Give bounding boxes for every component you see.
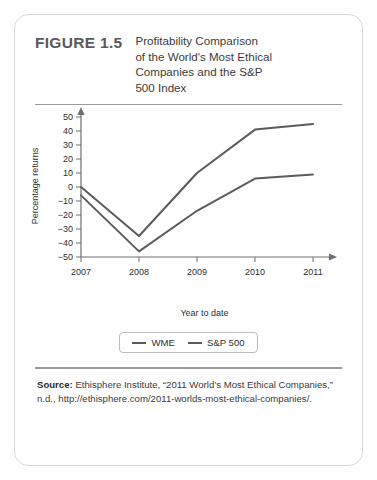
header-divider xyxy=(35,104,342,105)
x-axis-title: Year to date xyxy=(15,308,362,318)
y-axis-title: Percentage returns xyxy=(30,136,40,236)
y-tick-label: 10 xyxy=(63,168,73,178)
legend-item-sp500: S&P 500 xyxy=(188,337,245,348)
y-tick-label: 50 xyxy=(63,112,73,122)
figure-header: FIGURE 1.5 Profitability Comparison of t… xyxy=(15,15,362,95)
figure-card: FIGURE 1.5 Profitability Comparison of t… xyxy=(14,14,363,466)
series-line-wme xyxy=(81,124,313,236)
x-tick-label: 2011 xyxy=(303,267,322,277)
y-tick-label: 30 xyxy=(63,140,73,150)
y-tick-label: 20 xyxy=(63,154,73,164)
y-tick-label: 40 xyxy=(63,126,73,136)
figure-title-line: of the World's Most Ethical xyxy=(135,49,272,65)
x-axis-arrow-icon xyxy=(329,254,337,261)
source-text: Ethisphere Institute, “2011 World’s Most… xyxy=(37,379,333,404)
source-divider xyxy=(35,367,342,368)
y-tick-label: −30 xyxy=(58,224,73,234)
x-tick-label: 2009 xyxy=(187,267,207,277)
legend-box: WME S&P 500 xyxy=(119,332,257,353)
figure-title: Profitability Comparison of the World's … xyxy=(135,33,272,95)
y-tick-label: −40 xyxy=(58,238,73,248)
figure-title-line: 500 Index xyxy=(135,80,272,96)
y-tick-label: −50 xyxy=(58,252,73,262)
x-tick-label: 2007 xyxy=(71,267,91,277)
line-chart: 50 40 30 20 10 0 −10 −20 −30 −40 −50 xyxy=(15,107,361,307)
x-axis-ticks xyxy=(81,257,313,262)
y-tick-label: −20 xyxy=(58,210,73,220)
figure-title-line: Profitability Comparison xyxy=(135,33,272,49)
x-tick-label: 2010 xyxy=(245,267,265,277)
source-note: Source: Ethisphere Institute, “2011 Worl… xyxy=(37,378,340,406)
source-label: Source: xyxy=(37,379,73,390)
y-tick-label: 0 xyxy=(68,182,73,192)
figure-number: FIGURE 1.5 xyxy=(35,33,122,52)
figure-title-line: Companies and the S&P xyxy=(135,64,272,80)
chart-area: Percentage returns 50 40 30 20 10 0 −10 … xyxy=(15,107,362,322)
y-axis-tick-labels: 50 40 30 20 10 0 −10 −20 −30 −40 −50 xyxy=(58,112,73,262)
y-axis-arrow-icon xyxy=(77,107,84,115)
x-axis-tick-labels: 2007 2008 2009 2010 2011 xyxy=(71,267,323,277)
legend-label: S&P 500 xyxy=(207,337,245,348)
legend-line-icon xyxy=(132,342,146,344)
legend-line-icon xyxy=(188,342,202,344)
legend-item-wme: WME xyxy=(132,337,174,348)
series-line-sp500 xyxy=(81,175,313,252)
legend-label: WME xyxy=(151,337,174,348)
chart-legend: WME S&P 500 xyxy=(15,332,362,353)
x-tick-label: 2008 xyxy=(129,267,149,277)
y-tick-label: −10 xyxy=(58,196,73,206)
